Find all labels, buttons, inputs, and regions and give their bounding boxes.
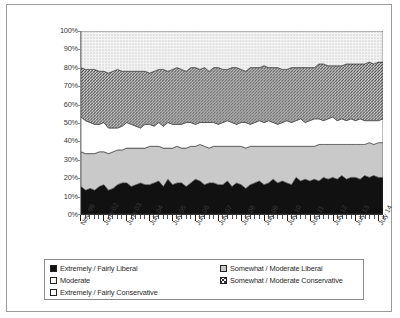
x-axis-minor-tick	[232, 215, 233, 219]
stacked-area-chart: 100%90%80%70%60%50%40%30%20%10%0% Nov. 9…	[37, 31, 387, 221]
x-axis-minor-tick	[282, 215, 283, 219]
legend-swatch-dots-icon	[50, 289, 57, 296]
area-series-3	[81, 62, 383, 128]
y-axis-tick	[78, 105, 81, 106]
x-axis-minor-tick	[300, 215, 301, 219]
x-axis-minor-tick	[374, 215, 375, 219]
legend-item[interactable]: Extremely / Fairly Conservative	[50, 286, 220, 298]
legend-item-label: Extremely / Fairly Conservative	[60, 288, 158, 297]
y-axis-tick-label: 50%	[38, 118, 78, 127]
y-axis-tick	[78, 178, 81, 179]
x-axis-minor-tick	[328, 215, 329, 219]
legend-item[interactable]: Somewhat / Moderate Conservative	[220, 274, 362, 286]
y-axis-tick	[78, 123, 81, 124]
legend-column-left: Extremely / Fairly LiberalModerateExtrem…	[50, 262, 220, 298]
legend-item-label: Extremely / Fairly Liberal	[60, 264, 137, 273]
plot-area	[80, 31, 383, 215]
x-axis-minor-tick	[121, 215, 122, 219]
y-axis-tick-label: 70%	[38, 81, 78, 90]
y-axis-tick	[78, 86, 81, 87]
y-axis-tick	[78, 214, 81, 215]
y-axis-tick-label: 10%	[38, 192, 78, 201]
x-axis-minor-tick	[323, 215, 324, 219]
y-axis-tick	[78, 49, 81, 50]
y-axis-tick-label: 0%	[38, 210, 78, 219]
legend-swatch-cross-icon	[220, 277, 227, 284]
x-axis-minor-tick	[144, 215, 145, 219]
y-axis: 100%90%80%70%60%50%40%30%20%10%0%	[37, 31, 78, 215]
legend-item[interactable]: Extremely / Fairly Liberal	[50, 262, 220, 274]
y-axis-tick	[78, 31, 81, 32]
y-axis-tick-label: 100%	[38, 26, 78, 35]
x-axis-minor-tick	[346, 215, 347, 219]
legend-column-right: Somewhat / Moderate LiberalSomewhat / Mo…	[220, 262, 362, 286]
x-axis-minor-tick	[277, 215, 278, 219]
x-axis-minor-tick	[236, 215, 237, 219]
legend-swatch-white-icon	[50, 277, 57, 284]
legend-item-label: Somewhat / Moderate Conservative	[230, 276, 343, 285]
x-axis-minor-tick	[351, 215, 352, 219]
y-axis-tick-label: 40%	[38, 136, 78, 145]
y-axis-tick-label: 80%	[38, 63, 78, 72]
legend-swatch-solid-icon	[50, 265, 57, 272]
y-axis-tick	[78, 141, 81, 142]
x-axis-minor-tick	[213, 215, 214, 219]
x-axis-minor-tick	[186, 215, 187, 219]
legend-item[interactable]: Somewhat / Moderate Liberal	[220, 262, 362, 274]
x-axis-minor-tick	[259, 215, 260, 219]
legend-item[interactable]: Moderate	[50, 274, 220, 286]
y-axis-tick	[78, 197, 81, 198]
chart-legend: Extremely / Fairly LiberalModerateExtrem…	[44, 259, 364, 300]
x-axis-minor-tick	[209, 215, 210, 219]
x-axis-minor-tick	[98, 215, 99, 219]
x-axis-minor-tick	[369, 215, 370, 219]
x-axis-minor-tick	[94, 215, 95, 219]
chart-outer-frame: 100%90%80%70%60%50%40%30%20%10%0% Nov. 9…	[6, 4, 392, 312]
x-axis-minor-tick	[254, 215, 255, 219]
legend-item-label: Somewhat / Moderate Liberal	[230, 264, 323, 273]
x-axis-labels: Nov. 99June 02June 03July 04July 05July …	[80, 220, 383, 260]
x-axis-minor-tick	[167, 215, 168, 219]
legend-item-label: Moderate	[60, 276, 90, 285]
y-axis-tick-label: 20%	[38, 173, 78, 182]
y-axis-tick-label: 60%	[38, 100, 78, 109]
plot-svg	[81, 31, 383, 214]
legend-swatch-grey-icon	[220, 265, 227, 272]
y-axis-tick	[78, 160, 81, 161]
y-axis-tick-label: 30%	[38, 155, 78, 164]
y-axis-tick	[78, 68, 81, 69]
x-axis-minor-tick	[117, 215, 118, 219]
x-axis-minor-tick	[305, 215, 306, 219]
y-axis-tick-label: 90%	[38, 44, 78, 53]
x-axis-minor-tick	[140, 215, 141, 219]
x-axis-minor-tick	[190, 215, 191, 219]
x-axis-minor-tick	[163, 215, 164, 219]
